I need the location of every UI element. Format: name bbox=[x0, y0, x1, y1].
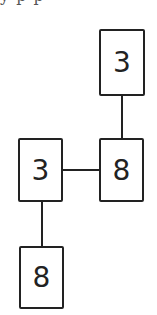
node-middle-right: 8 bbox=[99, 138, 144, 202]
edge-middle-left-to-middle-right bbox=[63, 169, 99, 171]
node-label: 8 bbox=[113, 154, 131, 187]
node-label: 3 bbox=[113, 46, 131, 79]
node-middle-left: 3 bbox=[18, 138, 63, 202]
clipped-header-text: y p p bbox=[0, 0, 157, 6]
node-bottom: 8 bbox=[19, 246, 64, 309]
edge-middle-left-to-bottom bbox=[41, 202, 43, 246]
node-label: 3 bbox=[32, 154, 50, 187]
edge-top-to-middle-right bbox=[121, 96, 123, 138]
node-label: 8 bbox=[33, 261, 51, 294]
node-top: 3 bbox=[99, 29, 145, 96]
